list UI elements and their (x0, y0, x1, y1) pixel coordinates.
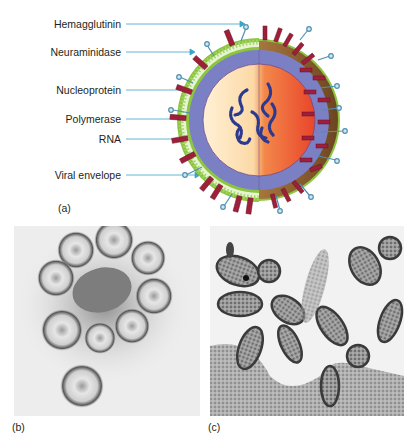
influenza-virus-diagram (0, 0, 419, 220)
micrograph-b (14, 226, 200, 416)
micrograph-c (210, 226, 404, 416)
panel-b-tag: (b) (12, 421, 25, 433)
panel-c-tag: (c) (208, 421, 220, 433)
